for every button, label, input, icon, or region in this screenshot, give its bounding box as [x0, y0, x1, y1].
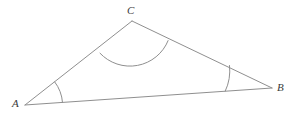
angle-arc-b	[225, 66, 230, 92]
vertex-labels: A B C	[11, 4, 284, 109]
triangle-edges	[25, 21, 272, 105]
angle-arc-a	[55, 82, 63, 103]
edge-ac	[25, 21, 132, 105]
geometry-figure-canvas: A B C	[0, 0, 300, 115]
edge-cb	[132, 21, 272, 88]
vertex-label-c: C	[127, 4, 135, 16]
angle-arc-c	[100, 41, 168, 67]
triangle-diagram: A B C	[0, 0, 300, 115]
vertex-label-b: B	[277, 81, 284, 93]
vertex-label-a: A	[11, 97, 19, 109]
